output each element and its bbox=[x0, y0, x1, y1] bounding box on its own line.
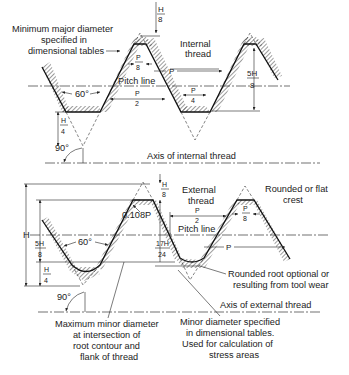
internal-p8-den: 8 bbox=[136, 64, 140, 71]
external-H-label: H bbox=[23, 230, 30, 240]
internal-p-label: P bbox=[169, 67, 174, 76]
external-p2-num: P bbox=[195, 207, 200, 214]
internal-p2-num: P bbox=[135, 90, 140, 97]
external-h4-num: H bbox=[44, 266, 49, 273]
minor-diameter-spec-label: Minor diameter specified bbox=[180, 317, 280, 327]
external-axis-label: Axis of external thread bbox=[220, 300, 311, 310]
svg-text:Used for calculation of: Used for calculation of bbox=[182, 339, 273, 349]
external-p8-den: 8 bbox=[243, 215, 247, 222]
crest-label: Rounded or flat bbox=[265, 184, 328, 194]
svg-text:specified in: specified in bbox=[41, 35, 87, 45]
svg-text:in dimensional tables.: in dimensional tables. bbox=[186, 328, 274, 338]
external-17h24-num: 17H bbox=[156, 240, 169, 247]
thread-profile-diagram: H 8 Minimum major diameter specified in … bbox=[0, 0, 349, 375]
min-major-diameter-label: Minimum major diameter bbox=[12, 24, 113, 34]
internal-thread-section: H 8 Minimum major diameter specified in … bbox=[12, 2, 320, 163]
internal-p4-num: P bbox=[191, 87, 196, 94]
external-pitch-line-label: Pitch line bbox=[178, 224, 215, 234]
internal-h8-num: H bbox=[158, 5, 164, 14]
external-5h8-den: 8 bbox=[38, 251, 42, 258]
svg-text:resulting from tool wear: resulting from tool wear bbox=[233, 280, 329, 290]
internal-h4-den: 4 bbox=[61, 128, 65, 135]
internal-5h8-den: 8 bbox=[250, 81, 255, 90]
internal-5h8-num: 5H bbox=[247, 69, 257, 78]
external-thread-title: External bbox=[182, 185, 216, 195]
external-p-label: P bbox=[226, 243, 231, 252]
internal-p2-den: 2 bbox=[135, 100, 139, 107]
svg-text:dimensional tables: dimensional tables bbox=[28, 46, 105, 56]
external-17h24-den: 24 bbox=[158, 251, 166, 258]
internal-p4-den: 4 bbox=[191, 97, 195, 104]
internal-60-degree-label: 60° bbox=[75, 89, 89, 99]
external-5h8-num: 5H bbox=[35, 240, 44, 247]
external-p8-num: P bbox=[243, 205, 248, 212]
svg-text:thread: thread bbox=[185, 49, 211, 59]
external-h8-den: 8 bbox=[162, 191, 166, 198]
root-rounding-label: 0.108P bbox=[122, 210, 151, 220]
internal-h4-num: H bbox=[61, 117, 66, 124]
svg-text:root contour and: root contour and bbox=[73, 341, 140, 351]
svg-text:thread: thread bbox=[188, 196, 214, 206]
internal-h8-den: 8 bbox=[158, 15, 163, 24]
external-h8-num: H bbox=[162, 181, 167, 188]
external-h4-den: 4 bbox=[44, 277, 48, 284]
internal-axis-label: Axis of internal thread bbox=[147, 151, 236, 161]
internal-thread-title: Internal bbox=[180, 39, 211, 49]
svg-text:at intersection of: at intersection of bbox=[73, 330, 141, 340]
svg-text:stress areas: stress areas bbox=[209, 350, 259, 360]
internal-p8-num: P bbox=[136, 54, 141, 61]
external-60-degree-label: 60° bbox=[78, 237, 92, 247]
external-thread-section: Pitch line H 5H 8 H 4 60° 0.108P H 8 17H… bbox=[23, 174, 330, 362]
max-minor-diameter-label: Maximum minor diameter bbox=[55, 319, 159, 329]
external-p2-den: 2 bbox=[195, 217, 199, 224]
internal-90-degree-label: 90° bbox=[55, 143, 69, 153]
external-90-degree-label: 90° bbox=[57, 292, 71, 302]
rounded-root-label: Rounded root optional or bbox=[228, 269, 329, 279]
svg-text:flank of thread: flank of thread bbox=[80, 352, 138, 362]
internal-pitch-line-label: Pitch line bbox=[118, 76, 155, 86]
svg-text:crest: crest bbox=[283, 195, 303, 205]
